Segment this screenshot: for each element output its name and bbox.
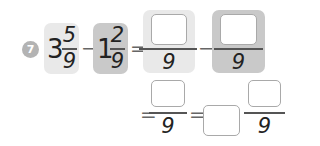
step3-denominator: 9 (244, 116, 285, 137)
step2-denominator: 9 (149, 116, 187, 137)
step1-second-tile: 9 (212, 10, 265, 73)
minuend-numerator: 5 (62, 25, 77, 46)
step3-whole-input[interactable] (203, 105, 240, 136)
minuend-denominator: 9 (62, 51, 77, 72)
step1-second-numerator-input[interactable] (220, 14, 257, 45)
subtrahend-tile: 1 2 9 (93, 23, 128, 74)
step1-first-numerator-input[interactable] (151, 14, 187, 45)
subtrahend-numerator: 2 (110, 25, 125, 46)
step2-numerator-input[interactable] (151, 80, 185, 107)
step3-numerator-input[interactable] (248, 80, 281, 107)
step1-second-denominator: 9 (212, 52, 265, 73)
step1-first-tile: 9 (143, 10, 195, 73)
step1-first-denominator: 9 (143, 52, 195, 73)
minuend-tile: 3 5 9 (44, 23, 79, 74)
problem-number-badge: 7 (22, 41, 39, 58)
subtrahend-denominator: 9 (110, 51, 125, 72)
